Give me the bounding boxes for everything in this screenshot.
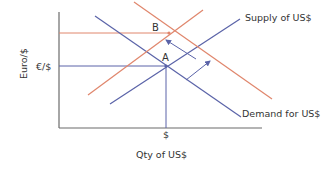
point-b-label: B — [152, 22, 159, 33]
x-axis-label: Qty of US$ — [136, 149, 187, 160]
demand-shift-arrow — [186, 61, 210, 80]
x-tick-label: $ — [163, 129, 169, 140]
point-a-label: A — [162, 52, 169, 63]
forex-supply-demand-diagram: A B €/$ $ Euro/$ Qty of US$ Supply of US… — [0, 0, 333, 173]
y-tick-label: €/$ — [36, 61, 51, 72]
supply-curve-label: Supply of US$ — [245, 12, 312, 23]
point-b-marker — [167, 31, 170, 34]
y-axis-label: Euro/$ — [18, 48, 29, 79]
supply-curve-original — [110, 19, 240, 104]
demand-curve-label: Demand for US$ — [242, 108, 320, 119]
point-a-marker — [164, 64, 167, 67]
